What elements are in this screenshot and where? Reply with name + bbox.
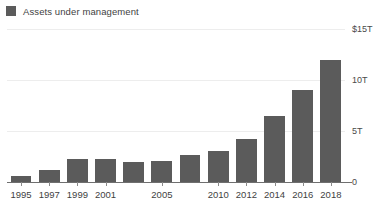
- bar-series-assets-under-management: [7, 29, 345, 182]
- x-axis-tick-mark-2012: [246, 182, 247, 186]
- x-axis-tick-label-2010: 2010: [208, 189, 229, 200]
- x-axis-tick-label-2001: 2001: [95, 189, 116, 200]
- x-axis-tick-label-1995: 1995: [11, 189, 32, 200]
- x-axis-tick-label-1999: 1999: [67, 189, 88, 200]
- x-axis-tick-mark-1997: [49, 182, 50, 186]
- bar-1997: [39, 170, 60, 182]
- bar-2001: [95, 159, 116, 182]
- plot-area: [7, 29, 345, 182]
- bar-2018: [320, 60, 341, 182]
- x-axis-tick-mark-2001: [106, 182, 107, 186]
- bar-2016: [292, 90, 313, 182]
- x-axis-tick-label-2016: 2016: [292, 189, 313, 200]
- bar-1999: [67, 159, 88, 182]
- x-axis-tick-mark-2014: [275, 182, 276, 186]
- x-axis-tick-mark-1999: [77, 182, 78, 186]
- legend-swatch-assets-under-management: [6, 6, 16, 16]
- bar-2010: [208, 151, 229, 182]
- x-axis-tick-mark-2016: [303, 182, 304, 186]
- y-axis-tick-label-$15T: $15T: [352, 24, 373, 34]
- y-axis-tick-label-5T: 5T: [352, 126, 363, 136]
- x-axis-tick-label-1997: 1997: [39, 189, 60, 200]
- x-axis-tick-mark-2018: [331, 182, 332, 186]
- x-axis-tick-label-2018: 2018: [320, 189, 341, 200]
- x-axis-tick-mark-2005: [162, 182, 163, 186]
- x-axis-tick-mark-2010: [218, 182, 219, 186]
- bar-2014: [264, 116, 285, 182]
- x-axis-line: [7, 182, 352, 183]
- bar-2005: [151, 161, 172, 182]
- bar-2007: [180, 155, 201, 182]
- legend-label-assets-under-management: Assets under management: [23, 6, 139, 17]
- y-axis-tick-label-0: 0: [352, 177, 357, 187]
- x-axis-tick-mark-1995: [21, 182, 22, 186]
- bar-chart: Assets under management 05T10T$15T 19951…: [0, 0, 385, 208]
- x-axis-tick-label-2014: 2014: [264, 189, 285, 200]
- x-axis-tick-label-2005: 2005: [151, 189, 172, 200]
- x-axis-tick-label-2012: 2012: [236, 189, 257, 200]
- bar-2003: [123, 162, 144, 182]
- chart-legend: Assets under management: [6, 4, 139, 18]
- y-axis-tick-label-10T: 10T: [352, 75, 368, 85]
- bar-2012: [236, 139, 257, 182]
